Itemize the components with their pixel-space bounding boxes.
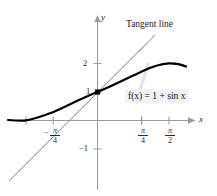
fraction-denominator: 4 (49, 137, 61, 145)
minus-sign: − (44, 129, 49, 137)
y-axis-arrow (94, 15, 100, 22)
tangent-line (9, 35, 155, 181)
y-tick-label-1: 1 (86, 87, 90, 96)
x-tick-label-neg-pi-over-4: − π 4 (49, 127, 61, 145)
x-axis-arrow (188, 117, 196, 123)
fraction-numerator: π (49, 127, 61, 135)
x-axis-label: x (199, 115, 203, 124)
tangency-point-marker (95, 89, 100, 94)
y-tick-label-2: 2 (83, 59, 87, 68)
fraction-denominator: 2 (164, 137, 176, 145)
fraction-denominator: 4 (137, 137, 149, 145)
figure-container: y x 2 1 −1 − π 4 π 4 π 2 Tangent line f(… (0, 0, 217, 196)
tangent-leader-line (139, 38, 152, 52)
x-tick-label-pi-over-4: π 4 (137, 127, 149, 145)
x-tick-label-pi-over-2: π 2 (164, 127, 176, 145)
y-tick-label-neg-1: −1 (79, 144, 88, 153)
equation-annotation: f(x) = 1 + sin x (125, 89, 188, 103)
fraction-numerator: π (164, 127, 176, 135)
y-axis-label: y (101, 13, 105, 22)
tangent-line-annotation: Tangent line (126, 20, 173, 30)
fraction-numerator: π (137, 127, 149, 135)
